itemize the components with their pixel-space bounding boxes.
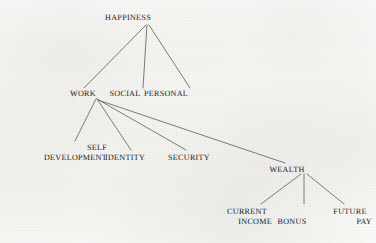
node-bonus: BONUS [278,217,307,228]
node-wealth: WEALTH [269,165,304,176]
node-personal: PERSONAL [144,89,188,100]
node-current-income-line1: CURRENT [227,207,267,218]
edge-work-to-self_development [75,99,96,141]
node-self-development-line2: DEVELOPMENT [44,153,107,164]
node-work: WORK [70,89,96,100]
edge-happiness-to-personal [149,25,190,88]
edge-happiness-to-work [84,25,146,88]
node-self-development-line1: SELF [87,143,107,154]
node-happiness: HAPPINESS [105,13,151,24]
edge-wealth-to-current_income [261,174,301,204]
tree-edge-layer [0,0,376,243]
node-security: SECURITY [168,153,210,164]
node-current-income-line2: INCOME [238,217,272,228]
edge-work-to-security [97,99,186,150]
edge-wealth-to-future_pay [307,174,344,204]
node-identity: IDENTITY [105,153,145,164]
node-future-pay-line2: PAY [356,217,372,228]
node-social: SOCIAL [109,89,140,100]
node-future-pay-line1: FUTURE [333,207,366,218]
happiness-tree-diagram: HAPPINESS WORK SOCIAL PERSONAL SELF DEVE… [0,0,376,243]
edge-happiness-to-social [143,25,147,88]
